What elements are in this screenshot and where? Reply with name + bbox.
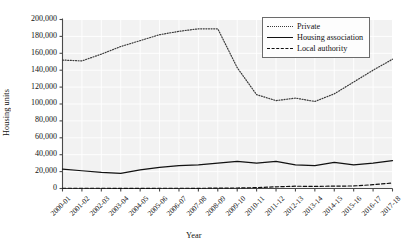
legend-label-housing-association: Housing association xyxy=(297,32,363,43)
housing-units-line-chart: Housing units Year 020,00040,00060,00080… xyxy=(0,0,405,249)
legend-line-dashed-icon xyxy=(267,45,293,53)
legend-item-local-authority: Local authority xyxy=(267,43,363,54)
chart-legend: Private Housing association Local author… xyxy=(262,17,370,58)
legend-line-solid-icon xyxy=(267,34,293,42)
legend-item-private: Private xyxy=(267,21,363,32)
legend-line-dotted-icon xyxy=(267,23,293,31)
legend-label-local-authority: Local authority xyxy=(297,43,347,54)
legend-item-housing-association: Housing association xyxy=(267,32,363,43)
legend-label-private: Private xyxy=(297,21,320,32)
